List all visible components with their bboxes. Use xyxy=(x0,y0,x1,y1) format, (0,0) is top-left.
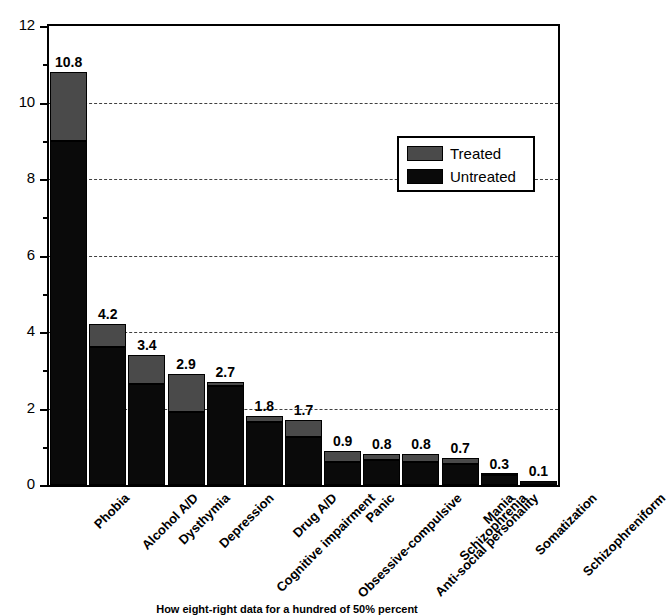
bar-value-label: 0.3 xyxy=(490,457,509,471)
bar-segment-untreated xyxy=(246,422,283,485)
bar-segment-treated xyxy=(246,416,283,422)
legend-item: Treated xyxy=(407,145,501,162)
bar-value-label: 0.1 xyxy=(529,464,548,478)
y-axis-tick-label: 10 xyxy=(19,94,35,109)
bar-group[interactable]: 1.7 xyxy=(285,420,322,485)
bar-segment-treated xyxy=(128,355,165,384)
chart-legend: TreatedUntreated xyxy=(397,136,535,192)
bar-segment-treated xyxy=(207,382,244,386)
y-tick-major xyxy=(40,409,49,411)
bar-group[interactable]: 4.2 xyxy=(89,324,126,485)
bar-segment-untreated xyxy=(520,481,557,485)
bar-value-label: 0.8 xyxy=(372,437,391,451)
bar-segment-treated xyxy=(324,451,361,462)
y-axis-tick-label: 2 xyxy=(27,400,35,415)
bar-segment-untreated xyxy=(89,347,126,485)
y-axis-tick-label: 0 xyxy=(27,476,35,491)
bar-segment-untreated xyxy=(207,386,244,485)
x-axis-category-label: Mania xyxy=(481,491,516,526)
x-axis-category-label: Obsessive-compulsive xyxy=(355,491,464,600)
bar-group[interactable]: 3.4 xyxy=(128,355,165,485)
y-tick-major xyxy=(40,256,49,258)
y-tick-major xyxy=(40,26,49,28)
x-axis-category-label: Schizophrenia xyxy=(457,491,529,563)
bar-segment-treated xyxy=(442,458,479,464)
x-axis-category-label: Cognitive impairment xyxy=(274,491,377,594)
y-tick-major xyxy=(40,485,49,487)
legend-item: Untreated xyxy=(407,168,516,185)
y-axis-tick-label: 8 xyxy=(27,170,35,185)
bar-group[interactable]: 0.8 xyxy=(363,454,400,485)
bar-segment-treated xyxy=(363,454,400,460)
x-axis-category-label: Depression xyxy=(217,491,276,550)
bar-segment-treated xyxy=(285,420,322,437)
y-axis-tick-label: 4 xyxy=(27,323,35,338)
x-axis-category-label: Panic xyxy=(363,491,397,525)
bars-layer: 10.84.23.42.92.71.81.70.90.80.80.70.30.1 xyxy=(49,26,558,485)
y-tick-major xyxy=(40,332,49,334)
bar-segment-untreated xyxy=(128,384,165,485)
bar-segment-untreated xyxy=(168,412,205,485)
legend-swatch xyxy=(407,169,443,184)
bar-value-label: 1.8 xyxy=(255,399,274,413)
bar-segment-untreated xyxy=(442,464,479,485)
y-axis-tick-label: 6 xyxy=(27,247,35,262)
legend-label: Treated xyxy=(450,146,501,161)
bar-group[interactable]: 0.8 xyxy=(402,454,439,485)
bar-segment-treated xyxy=(481,473,518,475)
bar-segment-untreated xyxy=(481,475,518,485)
bar-value-label: 2.7 xyxy=(215,365,234,379)
bar-value-label: 0.8 xyxy=(411,437,430,451)
bar-segment-untreated xyxy=(324,462,361,485)
bar-segment-treated xyxy=(50,72,87,141)
bar-segment-treated xyxy=(402,454,439,462)
x-axis-category-label: Alcohol A/D xyxy=(139,491,200,552)
bar-value-label: 0.9 xyxy=(333,434,352,448)
x-axis-category-label: Phobia xyxy=(91,491,131,531)
bar-segment-treated xyxy=(89,324,126,347)
plot-area: 10.84.23.42.92.71.81.70.90.80.80.70.30.1… xyxy=(47,24,560,487)
bar-segment-untreated xyxy=(285,437,322,485)
bar-value-label: 1.7 xyxy=(294,403,313,417)
x-axis-category-label: Schizophreniform xyxy=(581,491,668,578)
legend-swatch xyxy=(407,146,443,161)
bar-value-label: 10.8 xyxy=(55,55,82,69)
bar-group[interactable]: 10.8 xyxy=(50,72,87,485)
bar-segment-treated xyxy=(168,374,205,412)
bar-group[interactable]: 0.3 xyxy=(481,474,518,485)
bar-value-label: 3.4 xyxy=(137,338,156,352)
bar-segment-untreated xyxy=(402,462,439,485)
bar-segment-untreated xyxy=(50,141,87,485)
bar-group[interactable]: 1.8 xyxy=(246,416,283,485)
legend-label: Untreated xyxy=(450,169,516,184)
bar-group[interactable]: 0.7 xyxy=(442,458,479,485)
bar-group[interactable]: 0.9 xyxy=(324,451,361,485)
bar-segment-untreated xyxy=(363,460,400,485)
y-axis-tick-label: 12 xyxy=(19,17,35,32)
x-axis-category-label: Dysthymia xyxy=(176,491,232,547)
x-axis-category-label: Anti-social personality xyxy=(433,491,541,599)
bar-value-label: 2.9 xyxy=(176,357,195,371)
x-axis-category-label: Somatization xyxy=(533,491,599,557)
bar-group[interactable]: 0.1 xyxy=(520,481,557,485)
bar-value-label: 0.7 xyxy=(450,441,469,455)
y-tick-major xyxy=(40,103,49,105)
figure-caption: How eight-right data for a hundred of 50… xyxy=(0,603,574,615)
bar-group[interactable]: 2.7 xyxy=(207,382,244,485)
y-tick-major xyxy=(40,179,49,181)
bar-group[interactable]: 2.9 xyxy=(168,374,205,485)
x-axis-category-label: Drug A/D xyxy=(291,491,340,540)
bar-value-label: 4.2 xyxy=(98,307,117,321)
